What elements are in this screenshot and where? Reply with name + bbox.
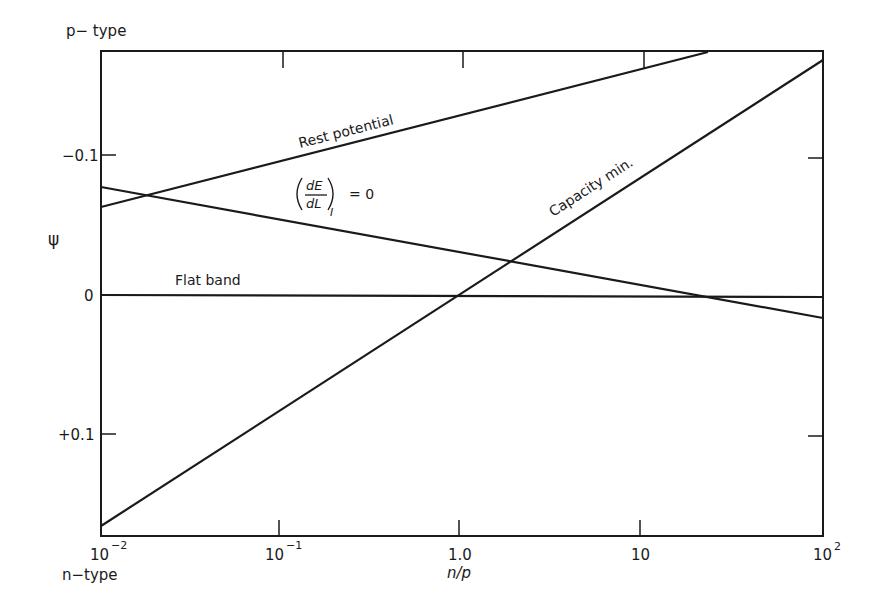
svg-text:−2: −2 xyxy=(111,539,127,552)
svg-text:2: 2 xyxy=(834,540,841,553)
series-dEdL-zero xyxy=(101,187,823,318)
series-flat-band xyxy=(101,295,823,297)
x-tick-label-1: 1.0 xyxy=(448,546,472,564)
svg-text:10: 10 xyxy=(813,546,832,564)
y-axis-label: ψ xyxy=(48,229,59,249)
series-capacity-min xyxy=(101,60,823,526)
p-type-label: p− type xyxy=(66,22,126,40)
x-axis-label: n/p xyxy=(447,564,471,582)
chart: p− type n−type ψ −0.1 0 +0.1 10 −2 10 −1… xyxy=(0,0,885,616)
svg-text:10: 10 xyxy=(265,546,284,564)
svg-text:dL: dL xyxy=(306,196,322,211)
x-tick-label-10: 10 xyxy=(631,546,650,564)
svg-text:I: I xyxy=(330,206,333,219)
y-tick-label: −0.1 xyxy=(62,147,98,165)
svg-text:dE: dE xyxy=(306,178,323,193)
x-tick-label-1e-2: 10 −2 xyxy=(90,539,127,564)
series-rest-potential xyxy=(101,52,708,207)
y-tick-label: +0.1 xyxy=(58,426,94,444)
x-tick-label-1e-1: 10 −1 xyxy=(265,539,302,564)
svg-text:= 0: = 0 xyxy=(349,186,374,202)
svg-text:−1: −1 xyxy=(286,539,302,552)
flat-band-label: Flat band xyxy=(175,272,241,288)
n-type-label: n−type xyxy=(62,566,118,584)
y-tick-label: 0 xyxy=(84,287,94,305)
svg-text:10: 10 xyxy=(90,546,109,564)
left-paren xyxy=(297,178,302,210)
dEdL-label: dE dL I = 0 xyxy=(297,178,374,219)
x-tick-label-1e2: 10 2 xyxy=(813,540,841,564)
